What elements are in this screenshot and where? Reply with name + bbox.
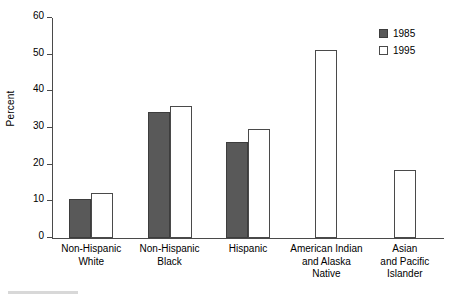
bar-1995-4 [315,50,337,238]
y-axis-line [52,18,53,238]
bar-1995-5 [394,170,416,238]
y-tick-label: 50 [22,47,44,58]
y-tick: 10 [47,200,52,201]
bar-1995-1 [91,193,113,238]
bar-1995-2 [170,106,192,238]
x-category-label: Asian and Pacific Islander [366,243,444,281]
legend-item-1985: 1985 [379,26,415,41]
x-category-label: Hispanic [209,243,287,256]
y-tick-label: 0 [22,230,44,241]
y-tick-label: 40 [22,83,44,94]
bar-chart-figure: Percent 0102030405060 Non-Hispanic White… [0,0,457,300]
x-category-label: American Indian and Alaska Native [287,243,365,281]
y-tick-label: 60 [22,10,44,21]
y-tick: 40 [47,90,52,91]
bar-1985-1 [69,199,91,238]
y-tick: 0 [47,237,52,238]
legend-label: 1995 [393,45,415,56]
bar-1985-3 [226,142,248,238]
y-tick: 50 [47,54,52,55]
y-tick: 20 [47,164,52,165]
x-category-label: Non-Hispanic White [52,243,130,268]
legend-swatch-icon [379,29,388,38]
x-axis-line [52,238,444,239]
y-axis-label: Percent [5,77,16,141]
chart-legend: 19851995 [379,26,415,60]
y-tick-label: 10 [22,193,44,204]
bar-1985-2 [148,112,170,238]
legend-swatch-icon [379,46,388,55]
legend-label: 1985 [393,28,415,39]
y-tick: 30 [47,127,52,128]
bar-1995-3 [248,129,270,238]
legend-item-1995: 1995 [379,43,415,58]
y-tick-label: 20 [22,157,44,168]
y-tick-label: 30 [22,120,44,131]
x-category-label: Non-Hispanic Black [130,243,208,268]
page-artifact [8,291,78,294]
y-tick: 60 [47,17,52,18]
